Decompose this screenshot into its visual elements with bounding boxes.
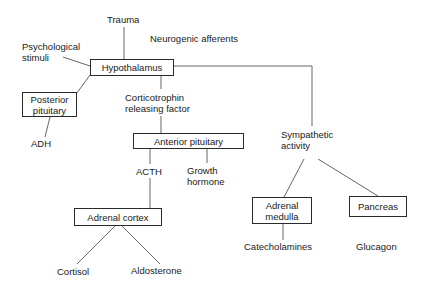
catecholamines-label: Catecholamines [244, 241, 312, 252]
posterior-pituitary-line1: Posterior [30, 94, 68, 105]
adrenal-medulla-connector [284, 159, 304, 197]
psychological-line2: stimuli [22, 52, 80, 63]
psychological-line1: Psychological [22, 41, 80, 52]
acth-label: ACTH [136, 166, 162, 177]
aldosterone-label: Aldosterone [131, 265, 182, 276]
sympathetic-activity-label: Sympathetic activity [281, 129, 333, 151]
crf-label: Corticotrophin releasing factor [125, 92, 190, 114]
adrenal-cortex-label: Adrenal cortex [87, 212, 148, 223]
posterior-pituitary-connector [77, 75, 90, 93]
pancreas-node: Pancreas [349, 196, 407, 217]
adrenal-medulla-line2: medulla [265, 211, 298, 222]
growth-hormone-line2: hormone [187, 176, 225, 187]
growth-hormone-line1: Growth [187, 165, 225, 176]
crf-line1: Corticotrophin [125, 92, 190, 103]
cortisol-connector [77, 226, 115, 264]
adrenal-cortex-node: Adrenal cortex [74, 208, 162, 226]
psychological-stimuli-label: Psychological stimuli [22, 41, 80, 63]
crf-line2: releasing factor [125, 103, 190, 114]
aldosterone-connector [122, 226, 160, 264]
glucagon-label: Glucagon [356, 241, 397, 252]
trauma-label: Trauma [107, 14, 139, 25]
neurogenic-afferents-label: Neurogenic afferents [150, 33, 238, 44]
posterior-pituitary-line2: pituitary [33, 105, 66, 116]
adrenal-medulla-node: Adrenal medulla [252, 197, 312, 224]
adh-label: ADH [31, 138, 51, 149]
hypothalamus-node: Hypothalamus [90, 59, 174, 76]
pancreas-label: Pancreas [358, 201, 398, 212]
adrenal-medulla-line1: Adrenal [266, 200, 299, 211]
anterior-pituitary-node: Anterior pituitary [133, 133, 244, 149]
adh-connector [45, 117, 50, 137]
hypothalamus-label: Hypothalamus [102, 62, 163, 73]
sympathetic-line1: Sympathetic [281, 129, 333, 140]
cortisol-label: Cortisol [57, 266, 89, 277]
sympathetic-connector [174, 66, 312, 126]
posterior-pituitary-node: Posterior pituitary [22, 92, 77, 117]
growth-hormone-label: Growth hormone [187, 165, 225, 187]
pancreas-connector [318, 159, 378, 196]
anterior-pituitary-label: Anterior pituitary [154, 136, 223, 147]
sympathetic-line2: activity [281, 140, 333, 151]
